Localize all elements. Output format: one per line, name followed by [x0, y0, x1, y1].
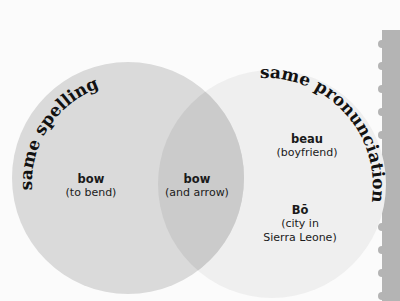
overlap-entry: bow (and arrow)	[152, 172, 242, 200]
left-word: bow	[46, 172, 136, 186]
bo-definition-line1: (city in	[250, 217, 350, 231]
overlap-word: bow	[152, 172, 242, 186]
beau-word: beau	[262, 132, 352, 146]
bo-word: Bō	[250, 203, 350, 217]
bo-definition-line2: Sierra Leone)	[250, 231, 350, 245]
venn-diagram: same spelling same pronunciation bow (to…	[0, 0, 400, 301]
overlap-definition: (and arrow)	[152, 186, 242, 200]
beau-definition: (boyfriend)	[262, 146, 352, 160]
right-entry-beau: beau (boyfriend)	[262, 132, 352, 160]
left-only-entry: bow (to bend)	[46, 172, 136, 200]
right-entry-bo: Bō (city in Sierra Leone)	[250, 203, 350, 245]
left-definition: (to bend)	[46, 186, 136, 200]
